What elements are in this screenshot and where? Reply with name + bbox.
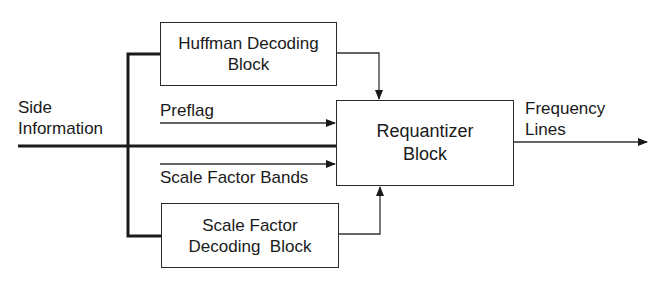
frequency-lines-line1: Frequency (525, 98, 605, 119)
preflag-label: Preflag (160, 100, 214, 121)
huffman-decoding-block: Huffman Decoding Block (160, 22, 337, 86)
huffman-label-line1: Huffman Decoding (178, 33, 319, 54)
huffman-label-line2: Block (178, 54, 319, 75)
huffman-output-arrow (336, 53, 379, 99)
side-information-label: Side Information (18, 97, 103, 139)
side-information-line2: Information (18, 118, 103, 139)
requantizer-label-line1: Requantizer (376, 120, 473, 143)
frequency-lines-line2: Lines (525, 119, 605, 140)
requantizer-block: Requantizer Block (336, 100, 514, 186)
requantizer-label-line2: Block (376, 143, 473, 166)
frequency-lines-label: Frequency Lines (525, 98, 605, 140)
scale-factor-output-arrow (338, 187, 380, 234)
scale-factor-bands-label: Scale Factor Bands (160, 167, 308, 188)
side-information-line1: Side (18, 97, 103, 118)
scale-factor-decoding-block: Scale Factor Decoding Block (161, 203, 339, 268)
scale-factor-decoding-label-line1: Scale Factor (189, 215, 312, 236)
scale-factor-decoding-label-line2: Decoding Block (189, 236, 312, 257)
